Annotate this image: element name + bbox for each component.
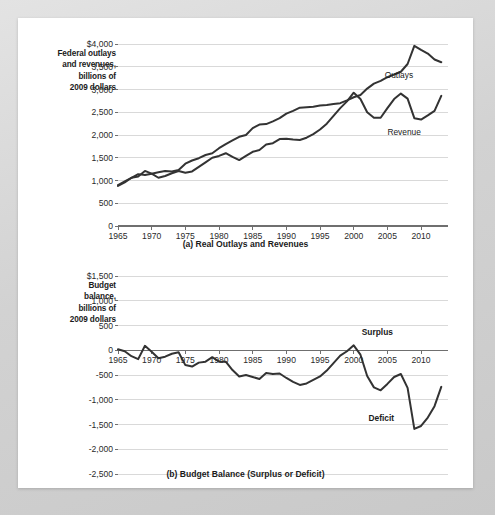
panel-a-axis-title-line-3: billions of — [20, 71, 116, 82]
y-axis-tick-label: -500 — [96, 370, 113, 380]
panel-b-caption: (b) Budget Balance (Surplus or Deficit) — [18, 469, 473, 479]
x-axis-tick-label: 1995 — [310, 355, 329, 365]
panel-b-chart-svg — [118, 276, 448, 474]
y-axis-tick-label: 0 — [108, 221, 113, 231]
y-axis-tick-label: -1,500 — [89, 420, 113, 430]
y-axis-tick-label: -2,000 — [89, 444, 113, 454]
panel-a-plot-area: $4,0003,5003,0002,5002,0001,5001,0005000… — [118, 44, 448, 226]
panel-budget-balance: Budget balance, billions of 2009 dollars… — [18, 258, 473, 488]
y-axis-tick-label: 2,000 — [91, 130, 113, 140]
y-axis-tick-label: 1,000 — [91, 296, 113, 306]
x-axis-tick-label: 1970 — [142, 355, 161, 365]
y-axis-tick-label: 500 — [99, 198, 113, 208]
figure-page: Federal outlays and revenues, billions o… — [0, 0, 495, 515]
y-axis-tick-label: $4,000 — [87, 39, 113, 49]
y-axis-tick-label: 1,500 — [91, 153, 113, 163]
y-axis-tick-label: -1,000 — [89, 395, 113, 405]
x-axis-tick-label: 1975 — [176, 355, 195, 365]
y-axis-tick-label: 500 — [99, 321, 113, 331]
series-label-deficit: Deficit — [369, 413, 395, 423]
series-label-outlays: Outlays — [385, 70, 413, 80]
y-axis-tick-label: $1,500 — [87, 271, 113, 281]
figure-card: Federal outlays and revenues, billions o… — [18, 18, 473, 488]
panel-real-outlays-and-revenues: Federal outlays and revenues, billions o… — [18, 26, 473, 256]
panel-b-axis-title-line-1: Budget — [20, 280, 116, 291]
x-axis-tick-label: 1990 — [277, 355, 296, 365]
y-axis-tick-label: 3,000 — [91, 85, 113, 95]
x-axis-tick-label: 1980 — [209, 355, 228, 365]
x-axis-tick-label: 1985 — [243, 355, 262, 365]
series-label-surplus: Surplus — [362, 327, 393, 337]
y-axis-tick-label: 0 — [108, 345, 113, 355]
panel-a-caption: (a) Real Outlays and Revenues — [18, 239, 473, 249]
series-label-revenue: Revenue — [387, 127, 421, 137]
x-axis-tick-label: 2010 — [411, 355, 430, 365]
panel-b-plot-area: $1,5001,0005000-500-1,000-1,500-2,000-2,… — [118, 276, 448, 474]
y-axis-tick-label: 2,500 — [91, 107, 113, 117]
x-axis-tick-label: 2005 — [378, 355, 397, 365]
x-axis-tick-label: 2000 — [344, 355, 363, 365]
x-axis-tick-label: 1965 — [108, 355, 127, 365]
panel-a-axis-title-line-1: Federal outlays — [20, 48, 116, 59]
y-axis-tick-label: 1,000 — [91, 176, 113, 186]
y-axis-tick-label: 3,500 — [91, 62, 113, 72]
